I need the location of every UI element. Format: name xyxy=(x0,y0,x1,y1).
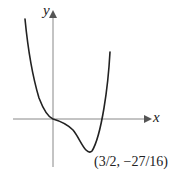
y-axis-label: y xyxy=(43,3,50,18)
x-axis-label: x xyxy=(153,110,160,125)
minimum-point-annotation: (3/2, −27/16) xyxy=(94,155,168,169)
function-curve xyxy=(25,19,110,152)
